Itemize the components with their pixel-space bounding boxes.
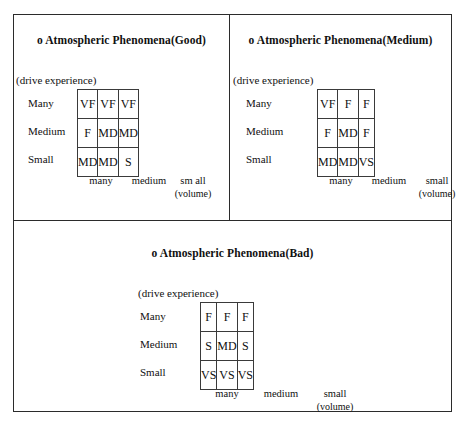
row-labels-bad: Many Medium Small [140, 302, 200, 386]
cell: VF [78, 90, 98, 119]
row-labels-good: Many Medium Small [28, 89, 77, 173]
unit-label-volume: (volume) [413, 188, 461, 201]
row-label-many: Many [140, 302, 200, 330]
column-labels-medium: many medium small (volume) [317, 175, 461, 200]
cell: VS [217, 361, 237, 390]
rule-table-good: VF VF VF F MD MD MD MD S [77, 89, 139, 177]
panel-title-medium: o Atmospheric Phenomena(Medium) [230, 34, 451, 46]
cell: VS [237, 361, 253, 390]
cell: VF [98, 90, 118, 119]
table-row: MD MD VS [318, 148, 375, 177]
cell: F [358, 119, 374, 148]
cell: S [237, 332, 253, 361]
cell: VS [201, 361, 217, 390]
cell: S [118, 148, 138, 177]
cell: F [78, 119, 98, 148]
row-label-many: Many [246, 89, 317, 117]
col-label-many: many [317, 175, 365, 200]
table-row: VF VF VF [78, 90, 139, 119]
axis-note-drive-experience-medium: (drive experience) [233, 74, 313, 86]
col-label-medium: medium [125, 175, 173, 200]
column-labels-bad: many medium small (volume) [200, 388, 362, 413]
panel-atmospheric-bad: o Atmospheric Phenomena(Bad) (drive expe… [14, 221, 451, 412]
col-label-medium: medium [365, 175, 413, 200]
row-label-medium: Medium [28, 117, 77, 145]
cell: F [338, 90, 358, 119]
panel-atmospheric-good: o Atmospheric Phenomena(Good) (drive exp… [14, 15, 229, 220]
cell: MD [318, 148, 338, 177]
panel-atmospheric-medium: o Atmospheric Phenomena(Medium) (drive e… [230, 15, 451, 220]
row-label-medium: Medium [246, 117, 317, 145]
cell: MD [338, 119, 358, 148]
axis-note-drive-experience-bad: (drive experience) [138, 287, 218, 299]
cell: F [358, 90, 374, 119]
cell: MD [98, 119, 118, 148]
cell: MD [78, 148, 98, 177]
column-labels-good: many medium sm all (volume) [77, 175, 213, 200]
row-label-medium: Medium [140, 330, 200, 358]
table-row: F MD MD [78, 119, 139, 148]
cell: MD [338, 148, 358, 177]
table-row: MD MD S [78, 148, 139, 177]
rule-table-bad: F F F S MD S VS VS VS [200, 302, 254, 390]
cell: F [237, 303, 253, 332]
cell: F [217, 303, 237, 332]
cell: MD [98, 148, 118, 177]
panel-title-good: o Atmospheric Phenomena(Good) [14, 34, 229, 46]
table-row: F F F [201, 303, 254, 332]
panel-title-bad: o Atmospheric Phenomena(Bad) [14, 247, 451, 259]
cell: S [201, 332, 217, 361]
col-label-small: small (volume) [413, 175, 461, 200]
axis-note-drive-experience-good: (drive experience) [16, 74, 96, 86]
row-label-small: Small [140, 358, 200, 386]
cell: VS [358, 148, 374, 177]
table-row: VS VS VS [201, 361, 254, 390]
cell: VF [318, 90, 338, 119]
col-label-many: many [200, 388, 254, 413]
figure-frame: o Atmospheric Phenomena(Good) (drive exp… [13, 14, 452, 412]
cell: MD [118, 119, 138, 148]
col-label-small: small (volume) [308, 388, 362, 413]
unit-label-volume: (volume) [173, 188, 213, 201]
table-row: VF F F [318, 90, 375, 119]
cell: VF [118, 90, 138, 119]
cell: F [201, 303, 217, 332]
col-label-small-text: sm all [180, 175, 205, 186]
col-label-small-text: small [426, 175, 449, 186]
rule-table-medium: VF F F F MD F MD MD VS [317, 89, 375, 177]
row-label-many: Many [28, 89, 77, 117]
row-label-small: Small [246, 145, 317, 173]
table-row: F MD F [318, 119, 375, 148]
cell: MD [217, 332, 237, 361]
col-label-medium: medium [254, 388, 308, 413]
row-label-small: Small [28, 145, 77, 173]
row-labels-medium: Many Medium Small [246, 89, 317, 173]
col-label-small: sm all (volume) [173, 175, 213, 200]
col-label-many: many [77, 175, 125, 200]
col-label-small-text: small [324, 388, 347, 399]
unit-label-volume: (volume) [308, 401, 362, 414]
table-row: S MD S [201, 332, 254, 361]
cell: F [318, 119, 338, 148]
